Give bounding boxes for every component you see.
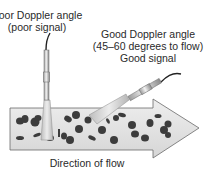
good-angle-label: Good Doppler angle bbox=[101, 28, 195, 40]
poor-doppler-probe bbox=[41, 33, 53, 140]
poor-angle-label: Poor Doppler angle bbox=[0, 9, 82, 21]
flow-direction-label: Direction of flow bbox=[50, 157, 125, 169]
good-signal-label: Good signal bbox=[120, 52, 176, 64]
poor-signal-label: (poor signal) bbox=[8, 21, 66, 33]
good-range-label: (45–60 degrees to flow) bbox=[93, 40, 203, 52]
